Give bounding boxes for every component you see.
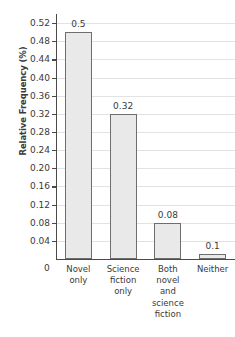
y-axis-tick [52, 205, 57, 206]
y-axis-tick [52, 241, 57, 242]
bar [199, 254, 226, 259]
bar [154, 223, 181, 259]
y-axis-tick-label: 0.20 [30, 164, 50, 173]
y-axis-tick-label: 0.08 [30, 218, 50, 227]
bar [110, 114, 137, 259]
y-axis-tick-label: 0.16 [30, 182, 50, 191]
y-axis-tick [52, 223, 57, 224]
x-axis-category-label: Neither [186, 264, 235, 275]
y-axis-tick [52, 41, 57, 42]
y-axis-tick-label: 0.36 [30, 91, 50, 100]
y-axis-tick-label: 0.04 [30, 236, 50, 245]
y-axis-tick-label: 0.48 [30, 37, 50, 46]
x-axis-category-line: fiction [142, 309, 195, 320]
y-axis-tick [52, 96, 57, 97]
y-axis-tick [52, 168, 57, 169]
bar-value-label: 0.5 [71, 20, 85, 29]
bar [65, 32, 92, 259]
y-axis-tick [52, 186, 57, 187]
x-axis-category-line: novel [142, 275, 195, 286]
x-axis-category-line: and [142, 286, 195, 297]
plot-area: 0.040.080.120.160.200.240.280.320.360.40… [56, 14, 235, 259]
y-axis-tick [52, 150, 57, 151]
origin-label: 0 [44, 264, 50, 273]
bar-value-label: 0.08 [158, 211, 178, 220]
y-axis-tick [52, 114, 57, 115]
y-axis-tick-label: 0.44 [30, 55, 50, 64]
y-axis-tick-label: 0.32 [30, 109, 50, 118]
y-axis-tick-label: 0.52 [30, 19, 50, 28]
y-axis-tick [52, 59, 57, 60]
y-axis-tick-label: 0.12 [30, 200, 50, 209]
x-axis-category-line: Neither [186, 264, 235, 275]
y-axis-tick-label: 0.28 [30, 127, 50, 136]
y-axis-tick [52, 132, 57, 133]
bar-chart: Relative Frequency (%) 0.040.080.120.160… [0, 0, 235, 337]
x-axis-line [56, 259, 235, 260]
bar-value-label: 0.32 [113, 102, 133, 111]
bar-value-label: 0.1 [205, 242, 219, 251]
y-axis-tick-label: 0.24 [30, 146, 50, 155]
y-axis-title: Relative Frequency (%) [18, 26, 28, 176]
y-axis-tick [52, 78, 57, 79]
y-axis-tick-label: 0.40 [30, 73, 50, 82]
x-axis-category-line: science [142, 298, 195, 309]
y-axis-tick [52, 23, 57, 24]
